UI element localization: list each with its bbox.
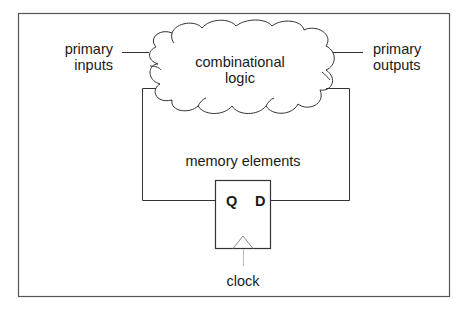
combinational-logic-label-line1: combinational [195,54,284,70]
primary-outputs-label-line2: outputs [373,57,421,73]
combinational-logic-label-line2: logic [225,70,255,86]
q-port-label: Q [226,193,237,209]
clock-label: clock [226,273,260,289]
primary-inputs-label-line1: primary [65,41,114,57]
memory-elements-label: memory elements [185,153,300,169]
primary-inputs-label-line2: inputs [74,57,113,73]
diagram-canvas: primary inputs primary outputs combinati… [0,0,459,310]
d-port-label: D [255,193,265,209]
primary-outputs-label-line1: primary [373,41,422,57]
flip-flop-box [216,181,271,249]
